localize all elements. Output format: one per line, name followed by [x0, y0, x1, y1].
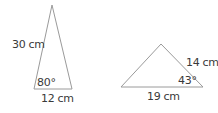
triangle-1-side-label: 30 cm — [12, 39, 45, 50]
triangle-1-base-label: 12 cm — [41, 93, 74, 104]
triangle-2-base-label: 19 cm — [147, 91, 180, 102]
triangle-1-angle-label: 80° — [37, 77, 56, 88]
triangle-2-side-label: 14 cm — [186, 57, 218, 68]
triangle-2-angle-label: 43° — [178, 75, 197, 86]
